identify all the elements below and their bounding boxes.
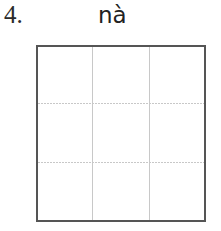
grid-line-horizontal [38, 103, 204, 104]
pinyin-label: nà [98, 0, 127, 30]
exercise-number: 4. [4, 0, 23, 30]
grid-line-horizontal [38, 162, 204, 163]
writing-grid-box [36, 45, 206, 222]
grid-line-vertical [92, 47, 93, 220]
grid-line-vertical [149, 47, 150, 220]
